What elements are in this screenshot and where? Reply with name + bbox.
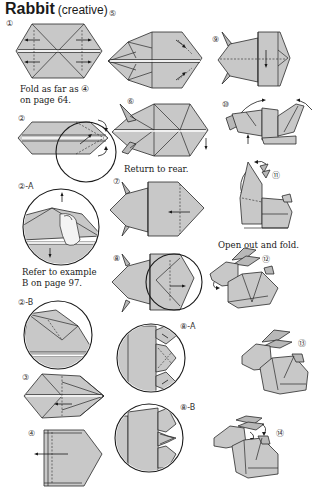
step-8-diagram: [110, 252, 210, 316]
step-2a-caption: Refer to example B on page 97.: [22, 267, 97, 289]
step-1-number: ①: [6, 19, 13, 28]
step-7-diagram: [108, 178, 208, 240]
step-1-diagram: [14, 22, 104, 80]
step-4-diagram: [32, 428, 104, 488]
step-13-diagram: [240, 328, 310, 398]
step-5-diagram: [106, 28, 202, 90]
step-9-diagram: [218, 30, 292, 88]
step-5-number: ⑤: [109, 9, 116, 18]
page-title: Rabbit(creative): [5, 0, 108, 18]
step-6-diagram: [110, 100, 210, 160]
step-2a-diagram: [22, 188, 100, 266]
step-6-caption: Return to rear.: [124, 164, 189, 175]
step-12-diagram: [208, 246, 278, 312]
step-14-diagram: [212, 414, 284, 484]
step-1-caption: Fold as far as ④ on page 64.: [20, 84, 89, 106]
step-3-diagram: [22, 372, 108, 418]
step-2b-diagram: [22, 300, 94, 370]
step-10-diagram: [222, 96, 318, 146]
step-8a-diagram: [116, 322, 186, 394]
title-text: Rabbit: [5, 0, 55, 17]
step-11-diagram: [232, 158, 302, 236]
step-8b-diagram: [114, 402, 184, 474]
subtitle-text: (creative): [58, 3, 108, 17]
